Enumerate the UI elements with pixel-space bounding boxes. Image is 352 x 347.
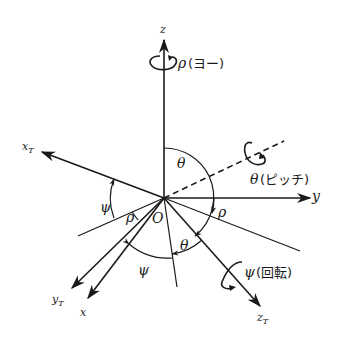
zT-axis: zT bbox=[164, 198, 269, 326]
yaw-symbol: ρ bbox=[177, 55, 187, 71]
pitch-rotation-arrow-icon bbox=[245, 142, 265, 164]
y-axis-label: y bbox=[311, 188, 321, 204]
theta-angle-lower: θ bbox=[172, 237, 202, 254]
z-axis-label: z bbox=[159, 23, 166, 36]
rho-angle-left: ρ bbox=[125, 209, 138, 225]
theta-lower-label: θ bbox=[180, 237, 189, 253]
yT-axis-label: yT bbox=[51, 293, 64, 308]
pitch-rotation-indicator: θ (ピッチ) bbox=[245, 142, 310, 187]
psi-angle-left: ψ bbox=[100, 179, 114, 218]
psi-lower-label: ψ bbox=[138, 262, 150, 278]
y-axis: y bbox=[164, 188, 321, 204]
pitch-label: (ピッチ) bbox=[260, 172, 309, 187]
rho-left-label: ρ bbox=[125, 209, 135, 225]
xT-axis: xT bbox=[22, 140, 164, 198]
theta-top-label: θ bbox=[177, 155, 186, 171]
z-axis: z bbox=[159, 23, 166, 198]
roll-label: (回転) bbox=[256, 265, 292, 280]
origin-label: O bbox=[152, 210, 164, 226]
theta-angle-top: θ bbox=[164, 148, 209, 176]
rotation-axes-diagram: z ρ (ヨー) y θ (ピッチ) xT yT x bbox=[0, 0, 352, 347]
pitch-angle-arc bbox=[195, 176, 214, 236]
roll-symbol: ψ bbox=[244, 264, 256, 280]
zT-axis-label: zT bbox=[256, 311, 269, 326]
psi-angle-lower: ψ bbox=[129, 244, 172, 278]
pitch-symbol: θ bbox=[250, 171, 259, 187]
rho-right-label: ρ bbox=[217, 204, 227, 220]
xT-axis-label: xT bbox=[22, 140, 34, 155]
roll-rotation-indicator: ψ (回転) bbox=[222, 262, 293, 291]
x-axis-label: x bbox=[80, 306, 87, 319]
yaw-rotation-indicator: ρ (ヨー) bbox=[150, 55, 224, 71]
yaw-label: (ヨー) bbox=[188, 56, 224, 71]
rho-angle-right: ρ bbox=[212, 198, 227, 220]
psi-left-label: ψ bbox=[100, 199, 112, 215]
